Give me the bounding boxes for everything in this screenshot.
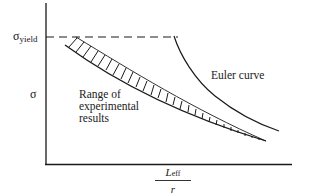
euler-curve-label: Euler curve <box>211 70 264 82</box>
x-axis-label: Leff r <box>155 167 191 195</box>
yield-subscript: yield <box>19 34 37 44</box>
y-axis-label: σ <box>30 88 36 100</box>
sigma-yield-label: σyield <box>13 30 37 42</box>
experimental-range-label: Range of experimental results <box>79 88 139 124</box>
euler-curve <box>174 36 279 131</box>
eff-subscript: eff <box>172 169 181 178</box>
x-axis-denominator: r <box>155 181 191 195</box>
stress-vs-slenderness-diagram: σyield σ Range of experimental results E… <box>0 0 309 195</box>
x-axis-numerator: Leff <box>155 167 191 181</box>
diagram-canvas <box>0 0 309 195</box>
